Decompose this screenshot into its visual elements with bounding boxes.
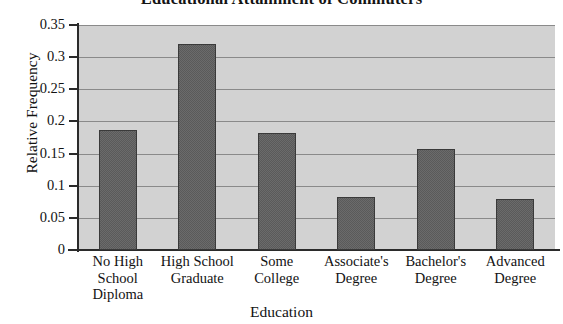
x-axis-tick-label-line: Advanced	[476, 253, 556, 270]
y-axis-tick-label: 0.3	[5, 48, 65, 65]
gridline	[78, 154, 555, 155]
bar	[496, 199, 534, 250]
y-axis-tick	[69, 249, 78, 251]
x-axis-tick-label: AdvancedDegree	[476, 253, 556, 286]
y-axis-tick-label: 0.35	[5, 16, 65, 33]
bar	[417, 149, 455, 250]
x-axis-tick-label-line: High School	[158, 253, 238, 270]
x-axis-tick-label-line: Diploma	[78, 286, 158, 303]
gridline	[78, 25, 555, 26]
bar-chart-figure: Educational Attainment of Commuters Rela…	[0, 0, 563, 324]
x-axis-tick-label: No HighSchoolDiploma	[78, 253, 158, 303]
x-axis-tick-label: High SchoolGraduate	[158, 253, 238, 286]
y-axis-tick-label: 0	[5, 241, 65, 258]
x-axis-tick-label-line: No High	[78, 253, 158, 270]
x-axis-tick-label-line: Graduate	[158, 270, 238, 287]
y-axis-tick	[69, 24, 78, 26]
x-axis-tick-label-line: Associate's	[317, 253, 397, 270]
x-axis-tick-label: Associate'sDegree	[317, 253, 397, 286]
bar	[258, 133, 296, 250]
x-axis-tick-label-line: Degree	[476, 270, 556, 287]
x-axis-tick-label-line: Some	[237, 253, 317, 270]
y-axis-tick	[69, 120, 78, 122]
bar	[178, 44, 216, 250]
x-axis-title: Education	[0, 303, 563, 321]
y-axis-tick-label: 0.2	[5, 112, 65, 129]
x-axis-tick-label-line: College	[237, 270, 317, 287]
x-axis-tick-label-line: Degree	[396, 270, 476, 287]
y-axis-tick-label: 0.1	[5, 177, 65, 194]
gridline	[78, 89, 555, 90]
y-axis-tick	[69, 88, 78, 90]
x-axis-tick-label-line: Bachelor's	[396, 253, 476, 270]
x-axis-line	[68, 249, 560, 251]
x-axis-tick-label: SomeCollege	[237, 253, 317, 286]
x-axis-tick-label-line: School	[78, 270, 158, 287]
y-axis-tick-label: 0.15	[5, 145, 65, 162]
x-axis-tick-label: Bachelor'sDegree	[396, 253, 476, 286]
bar	[99, 130, 137, 250]
plot-area	[78, 25, 555, 250]
x-axis-tick-label-line: Degree	[317, 270, 397, 287]
chart-title: Educational Attainment of Commuters	[0, 0, 563, 9]
gridline	[78, 121, 555, 122]
y-axis-tick	[69, 185, 78, 187]
gridline	[78, 218, 555, 219]
y-axis-tick	[69, 56, 78, 58]
gridline	[78, 57, 555, 58]
y-axis-tick-label: 0.25	[5, 80, 65, 97]
y-axis-tick	[69, 153, 78, 155]
gridline	[78, 186, 555, 187]
y-axis-tick-label: 0.05	[5, 209, 65, 226]
y-axis-tick	[69, 217, 78, 219]
bar	[337, 197, 375, 250]
